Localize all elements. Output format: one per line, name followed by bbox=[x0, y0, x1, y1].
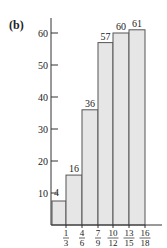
histogram-bar bbox=[66, 175, 82, 225]
y-tick-label: 30 bbox=[38, 124, 48, 135]
histogram-bar bbox=[82, 110, 98, 225]
bar-value-label: 57 bbox=[101, 31, 111, 42]
bar-value-label: 60 bbox=[116, 21, 126, 32]
bar-value-label: 36 bbox=[85, 98, 95, 109]
histogram-bar bbox=[98, 43, 113, 225]
y-tick-label: 20 bbox=[38, 156, 48, 167]
y-tick-label: 50 bbox=[38, 60, 48, 71]
x-tick-numerator: 4 bbox=[80, 228, 85, 238]
x-tick-numerator: 1 bbox=[64, 228, 69, 238]
x-tick-numerator: 7 bbox=[96, 228, 101, 238]
x-tick-numerator: 13 bbox=[125, 228, 135, 238]
x-tick-denominator: 12 bbox=[109, 238, 118, 248]
x-tick-denominator: 9 bbox=[96, 238, 101, 248]
x-tick-denominator: 18 bbox=[141, 238, 151, 248]
x-tick-numerator: 16 bbox=[141, 228, 151, 238]
x-tick-denominator: 6 bbox=[80, 238, 85, 248]
histogram-chart: 41636576061 102030405060 134679101213151… bbox=[0, 0, 167, 248]
x-tick-denominator: 3 bbox=[64, 238, 69, 248]
histogram-bar bbox=[113, 33, 129, 225]
y-tick-label: 10 bbox=[38, 188, 48, 199]
histogram-bar bbox=[129, 30, 145, 225]
y-tick-label: 60 bbox=[38, 28, 48, 39]
x-tick-numerator: 10 bbox=[109, 228, 119, 238]
x-axis: 134679101213151618 bbox=[51, 225, 162, 248]
x-tick-denominator: 15 bbox=[125, 238, 135, 248]
bar-value-label: 16 bbox=[69, 163, 79, 174]
bar-value-label: 61 bbox=[132, 18, 142, 29]
y-tick-label: 40 bbox=[38, 92, 48, 103]
bars-group bbox=[52, 30, 145, 225]
histogram-bar bbox=[52, 201, 66, 225]
